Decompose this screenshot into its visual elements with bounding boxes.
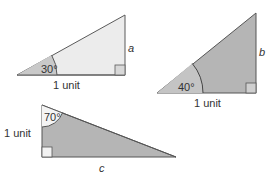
side-label-c: c [99,162,105,174]
base-label-a: 1 unit [53,79,80,91]
right-angle-marker [42,147,52,157]
triangles-diagram: 30° 1 unit a 40° 1 unit b 70° 1 unit c [0,0,276,175]
triangle-c [42,105,176,157]
triangle-b [157,13,256,93]
side-label-b: b [259,46,265,58]
angle-label-40: 40° [178,81,195,93]
side-label-1-unit: 1 unit [4,127,31,139]
angle-label-30: 30° [41,63,58,75]
right-angle-marker [115,65,125,75]
triangle-a [17,15,125,75]
side-label-a: a [128,42,134,54]
right-angle-marker [246,83,256,93]
angle-label-70: 70° [44,111,61,123]
base-label-b: 1 unit [194,97,221,109]
